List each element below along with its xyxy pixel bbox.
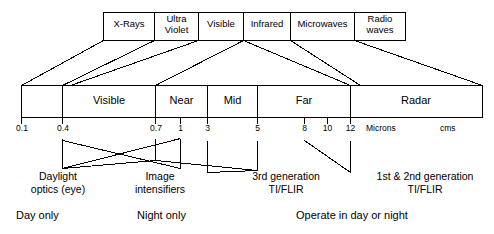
band-label-x-rays: X-Rays (103, 19, 155, 30)
tick-label-12: 12 (340, 124, 361, 134)
device-label-daylight-optics-line2: optics (eye) (8, 184, 108, 196)
region-label-mid: Mid (207, 94, 258, 106)
region-label-radar: Radar (350, 94, 482, 106)
tick-label-3: 3 (197, 124, 218, 134)
tick-label-8: 8 (294, 124, 315, 134)
band-label-microwaves: Microwaves (290, 19, 355, 30)
band-label-infrared: Infrared (243, 19, 291, 30)
device-brackets (63, 139, 351, 173)
bracket-intensifiers-extension (156, 161, 258, 171)
connector-uv-left (63, 41, 155, 86)
tick-label-0.1: 0.1 (8, 124, 36, 134)
tick-label-0.7: 0.7 (142, 124, 170, 134)
device-label-1st-2nd-generation-line1: 1st & 2nd generation (362, 171, 488, 183)
connector-infrared-left (156, 41, 244, 86)
region-label-visible: Visible (62, 94, 156, 106)
device-label-daylight-optics-line1: Daylight (8, 171, 108, 183)
band-label-radio-waves-line2: waves (354, 25, 406, 36)
condition-label-night-only: Night only (137, 209, 257, 221)
tick-label-0.4: 0.4 (49, 124, 77, 134)
band-connector-lines (22, 41, 483, 86)
connector-visible-left (71, 41, 199, 86)
device-label-1st-2nd-generation-line2: TI/FLIR (362, 184, 488, 196)
region-label-near: Near (155, 94, 208, 106)
connector-radio-waves-left (355, 41, 483, 86)
bracket-daylight-optics (63, 139, 156, 169)
spectrum-diagram: X-Rays Ultra Violet Visible Infrared Mic… (0, 0, 494, 234)
diagram-vector-artwork (0, 0, 494, 234)
scale-unit-microns: Microns (366, 124, 416, 134)
band-label-visible: Visible (198, 19, 244, 30)
bracket-1st-2nd-generation-leader (305, 141, 351, 173)
tick-label-1: 1 (170, 124, 191, 134)
tick-label-5: 5 (247, 124, 268, 134)
condition-label-operate-day-or-night: Operate in day or night (296, 209, 486, 221)
connector-infrared-right (244, 41, 351, 86)
device-label-3rd-generation-line1: 3rd generation (231, 171, 341, 183)
region-label-far: Far (257, 94, 351, 106)
device-label-image-intensifiers-line2: intensifiers (110, 184, 210, 196)
scale-unit-cms: cms (440, 124, 470, 134)
tick-label-10: 10 (317, 124, 338, 134)
condition-label-day-only: Day only (16, 209, 136, 221)
device-label-image-intensifiers-line1: Image (110, 171, 210, 183)
band-label-ultra-violet-line2: Violet (154, 25, 199, 36)
device-label-3rd-generation-line2: TI/FLIR (231, 184, 341, 196)
connector-microwaves-left (291, 41, 361, 86)
